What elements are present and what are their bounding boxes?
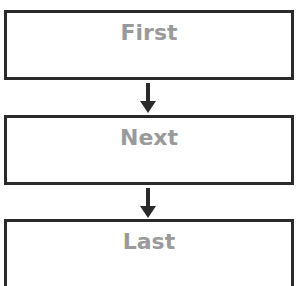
node-next: Next [4, 115, 294, 185]
arrow-down-icon [140, 188, 156, 218]
node-label: Next [7, 125, 291, 150]
arrow-down-icon [140, 83, 156, 113]
node-last: Last [4, 219, 294, 286]
node-label: Last [7, 229, 291, 254]
node-label: First [7, 20, 291, 45]
node-first: First [4, 10, 294, 80]
